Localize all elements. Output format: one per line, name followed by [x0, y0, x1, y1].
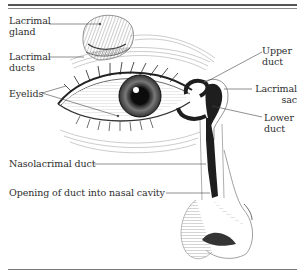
label-lacrimal-sac-line1: Lacrimal [253, 83, 297, 94]
label-upper-duct-line2: duct [262, 56, 292, 67]
label-lower-duct-line1: Lower [264, 112, 294, 123]
label-lacrimal-gland: Lacrimal gland [9, 15, 51, 37]
label-lacrimal-sac: Lacrimal sac [253, 83, 297, 105]
label-lower-duct-line2: duct [264, 123, 294, 134]
label-lacrimal-gland-line2: gland [9, 26, 51, 37]
lower-eyelashes [76, 116, 153, 131]
label-lacrimal-ducts-line2: ducts [9, 62, 51, 73]
label-lacrimal-gland-line1: Lacrimal [9, 15, 51, 26]
nose-drawing [181, 150, 253, 259]
label-lower-duct: Lower duct [264, 112, 294, 134]
label-nasolacrimal-duct: Nasolacrimal duct [9, 158, 96, 169]
label-eyelids: Eyelids [9, 88, 43, 99]
label-lacrimal-ducts-line1: Lacrimal [9, 51, 51, 62]
label-upper-duct-line1: Upper [262, 45, 292, 56]
label-lacrimal-ducts: Lacrimal ducts [9, 51, 51, 73]
label-opening-into-nasal-cavity: Opening of duct into nasal cavity [9, 187, 165, 198]
label-upper-duct: Upper duct [262, 45, 292, 67]
lacrimal-illustration [0, 0, 305, 272]
eye-drawing [58, 62, 192, 131]
label-lacrimal-sac-line2: sac [253, 94, 297, 105]
